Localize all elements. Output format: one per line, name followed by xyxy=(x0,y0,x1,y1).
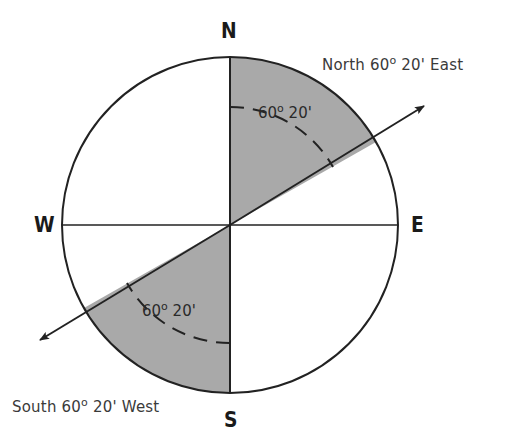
bearing-sw-suffix: 20' West xyxy=(88,398,159,416)
bearing-label-ne: North 60o 20' East xyxy=(322,56,463,74)
angle-upper-suffix: 20' xyxy=(284,104,312,122)
angle-label-upper: 60o 20' xyxy=(258,104,312,122)
bearing-ne-suffix: 20' East xyxy=(396,56,463,74)
angle-lower-suffix: 20' xyxy=(168,302,196,320)
bearing-ne-prefix: North 60 xyxy=(322,56,389,74)
cardinal-west-label: W xyxy=(34,212,55,237)
cardinal-east-label: E xyxy=(411,212,424,237)
angle-upper-prefix: 60 xyxy=(258,104,277,122)
shaded-sector-ne xyxy=(230,57,376,225)
degree-symbol: o xyxy=(277,102,284,115)
angle-label-lower: 60o 20' xyxy=(142,302,196,320)
cardinal-north-label: N xyxy=(221,18,237,43)
degree-symbol: o xyxy=(81,396,88,409)
bearing-sw-prefix: South 60 xyxy=(12,398,81,416)
angle-lower-prefix: 60 xyxy=(142,302,161,320)
bearing-label-sw: South 60o 20' West xyxy=(12,398,159,416)
degree-symbol: o xyxy=(161,300,168,313)
cardinal-south-label: S xyxy=(224,407,237,432)
